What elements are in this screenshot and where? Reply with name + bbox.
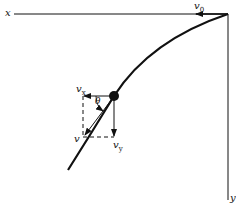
trajectory-curve [68,14,228,170]
x-axis-label: x [5,8,11,18]
v-label: v [74,134,80,144]
vx-label: vx [76,84,86,97]
y-axis-label: y [230,193,236,203]
particle-dot [109,91,119,101]
diagram-graphics [0,0,236,205]
theta-label: θ [95,97,100,106]
vy-label: vy [113,140,123,153]
projectile-diagram: x y v0 vx vy v θ [0,0,236,205]
v0-label: v0 [194,1,204,14]
